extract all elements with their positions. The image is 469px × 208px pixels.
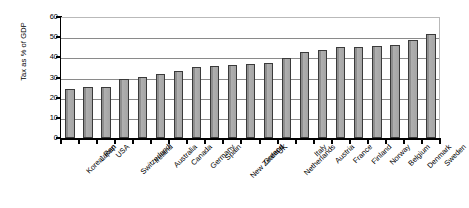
x-tick-mark bbox=[186, 140, 188, 144]
tax-gdp-bar-chart: Tax as % of GDP 6050403020100 Korea, Rep… bbox=[0, 0, 469, 208]
x-tick-mark bbox=[385, 140, 387, 144]
gridline bbox=[61, 38, 439, 39]
bar bbox=[264, 63, 273, 138]
bar bbox=[119, 79, 128, 138]
x-tick-mark bbox=[259, 140, 261, 144]
x-tick-mark bbox=[349, 140, 351, 144]
bar bbox=[336, 47, 345, 138]
x-tick-mark bbox=[168, 140, 170, 144]
x-tick-mark bbox=[421, 140, 423, 144]
bar bbox=[354, 47, 363, 138]
bar bbox=[318, 50, 327, 138]
x-tick-label: USA bbox=[115, 143, 132, 160]
bar bbox=[156, 74, 165, 138]
y-tick-mark bbox=[56, 16, 61, 18]
bar bbox=[210, 66, 219, 138]
bar bbox=[426, 34, 435, 138]
x-axis-line bbox=[60, 138, 441, 140]
bar bbox=[282, 58, 291, 138]
x-tick-mark bbox=[367, 140, 369, 144]
x-tick-mark bbox=[132, 140, 134, 144]
bar bbox=[83, 87, 92, 138]
x-tick-mark bbox=[277, 140, 279, 144]
bar bbox=[390, 45, 399, 138]
x-tick-label: France bbox=[352, 143, 374, 165]
x-tick-mark bbox=[439, 140, 441, 144]
bar bbox=[246, 64, 255, 138]
x-tick-mark bbox=[150, 140, 152, 144]
y-tick-mark bbox=[56, 97, 61, 99]
bar bbox=[138, 77, 147, 138]
x-tick-label: Austria bbox=[334, 143, 356, 165]
bar bbox=[174, 71, 183, 138]
bar bbox=[101, 87, 110, 138]
x-tick-mark bbox=[313, 140, 315, 144]
gridline bbox=[61, 58, 439, 59]
plot-area bbox=[61, 17, 440, 138]
x-tick-mark bbox=[403, 140, 405, 144]
bar bbox=[65, 89, 74, 138]
x-tick-mark bbox=[96, 140, 98, 144]
x-tick-mark bbox=[204, 140, 206, 144]
bar bbox=[228, 65, 237, 138]
x-tick-mark bbox=[60, 140, 62, 144]
y-tick-mark bbox=[56, 77, 61, 79]
bar bbox=[300, 52, 309, 138]
bar bbox=[372, 46, 381, 138]
bar bbox=[408, 40, 417, 138]
x-tick-mark bbox=[78, 140, 80, 144]
y-tick-mark bbox=[56, 36, 61, 38]
x-tick-mark bbox=[114, 140, 116, 144]
y-tick-mark bbox=[56, 56, 61, 58]
x-axis-tick-labels: Korea, RepJapanUSASwitzerlandIrelandAust… bbox=[61, 143, 441, 208]
x-tick-mark bbox=[295, 140, 297, 144]
y-tick-mark bbox=[56, 137, 61, 139]
y-tick-mark bbox=[56, 117, 61, 119]
x-tick-mark bbox=[240, 140, 242, 144]
bar bbox=[192, 67, 201, 138]
x-tick-mark bbox=[331, 140, 333, 144]
x-tick-mark bbox=[222, 140, 224, 144]
y-axis-tick-labels: 6050403020100 bbox=[40, 0, 58, 208]
y-axis-title: Tax as % of GDP bbox=[19, 2, 28, 102]
